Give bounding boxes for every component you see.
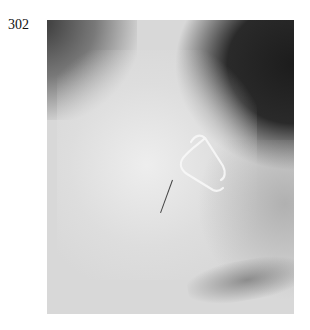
wire-clip-loop [173, 130, 233, 200]
radiograph-image [47, 20, 294, 314]
page-number: 302 [8, 17, 29, 33]
